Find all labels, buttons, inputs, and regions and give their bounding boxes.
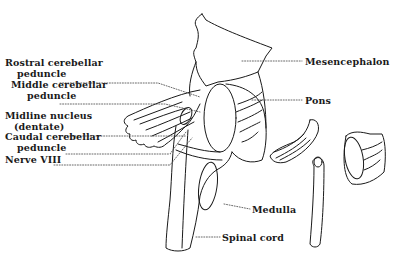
label-line: Middle cerebellar (11, 79, 107, 90)
label-line: Caudal cerebellar (5, 131, 101, 142)
detached-rod-shape (310, 157, 324, 247)
label-rostral-cerebellar-peduncle: Rostral cerebellar peduncle (5, 57, 103, 79)
label-pons: Pons (305, 95, 331, 106)
cerebellar-fan-shape (124, 90, 200, 147)
label-medulla: Medulla (252, 204, 296, 215)
label-spinal-cord: Spinal cord (222, 232, 284, 243)
label-line: peduncle (5, 142, 101, 153)
diagram-canvas: Rostral cerebellar peduncle Middle cereb… (0, 0, 401, 264)
detached-pons-shape (341, 132, 385, 184)
label-mesencephalon: Mesencephalon (305, 56, 390, 67)
label-middle-cerebellar-peduncle: Middle cerebellar peduncle (11, 79, 107, 101)
label-line: Nerve VIII (5, 154, 61, 165)
label-line: Midline nucleus (5, 110, 92, 121)
label-midline-nucleus: Midline nucleus (dentate) (5, 110, 92, 132)
mesencephalon-shape (189, 14, 272, 128)
label-line: peduncle (5, 68, 103, 79)
label-line: peduncle (11, 90, 107, 101)
label-caudal-cerebellar-peduncle: Caudal cerebellar peduncle (5, 131, 101, 153)
detached-fan-shape (270, 120, 319, 163)
label-nerve-viii: Nerve VIII (5, 154, 61, 165)
pons-shape (204, 84, 266, 162)
label-line: Rostral cerebellar (5, 57, 103, 68)
